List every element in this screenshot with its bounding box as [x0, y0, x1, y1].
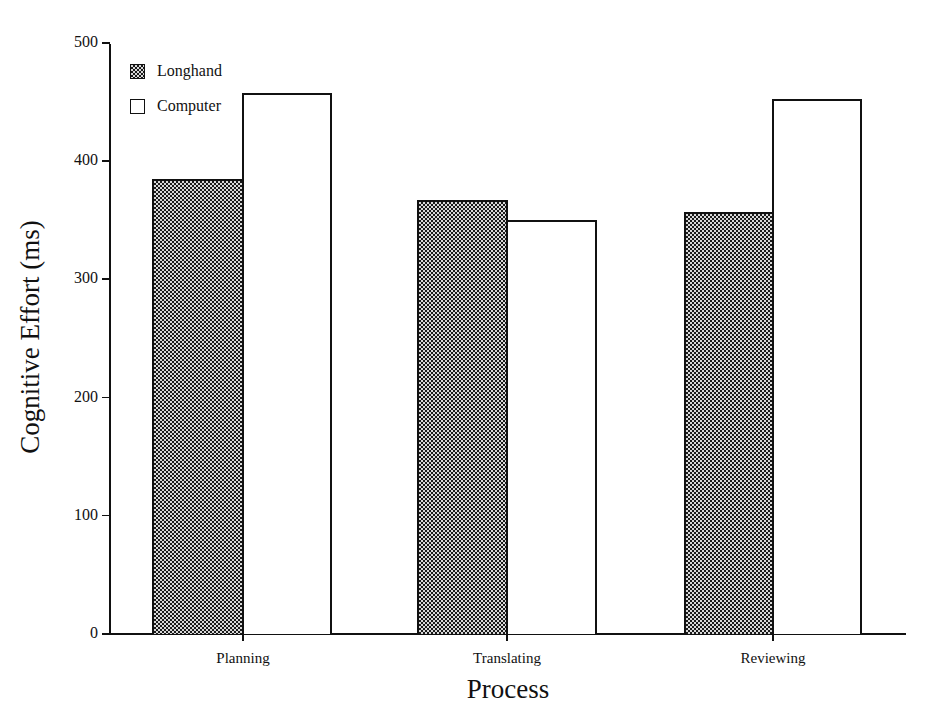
x-tick-label-translating: Translating: [437, 650, 577, 666]
legend-label-longhand: Longhand: [157, 62, 222, 80]
bar-reviewing-computer: [772, 99, 862, 634]
legend-item-computer: Computer: [130, 97, 221, 115]
bar-reviewing-longhand: [684, 212, 774, 634]
x-tick-label-reviewing: Reviewing: [703, 650, 843, 666]
x-tick-label-planning: Planning: [173, 650, 313, 666]
y-tick-mark: [102, 278, 110, 280]
y-tick-mark: [102, 515, 110, 517]
legend-label-computer: Computer: [157, 97, 221, 115]
x-tick-planning: [242, 633, 244, 641]
y-axis-title: Cognitive Effort (ms): [15, 197, 45, 477]
longhand-swatch-icon: [130, 64, 145, 79]
bar-translating-longhand: [417, 200, 508, 634]
computer-swatch-icon: [130, 99, 145, 114]
x-tick-translating: [506, 633, 508, 641]
x-axis-title: Process: [358, 674, 658, 704]
bar-planning-computer: [242, 93, 332, 634]
bar-chart: 0100200300400500 Planning Translating Re…: [0, 0, 935, 727]
x-tick-reviewing: [772, 633, 774, 641]
y-tick-label: 100: [48, 507, 98, 523]
y-tick-label: 200: [48, 389, 98, 405]
legend-item-longhand: Longhand: [130, 62, 222, 80]
y-tick-mark: [102, 633, 110, 635]
y-tick-label: 300: [48, 270, 98, 286]
y-tick-label: 500: [48, 34, 98, 50]
bar-translating-computer: [506, 220, 597, 634]
y-axis-line: [109, 44, 111, 635]
bar-planning-longhand: [152, 179, 244, 634]
y-tick-label: 0: [48, 625, 98, 641]
y-tick-label: 400: [48, 152, 98, 168]
y-tick-mark: [102, 397, 110, 399]
y-tick-mark: [102, 160, 110, 162]
y-tick-mark: [102, 42, 110, 44]
